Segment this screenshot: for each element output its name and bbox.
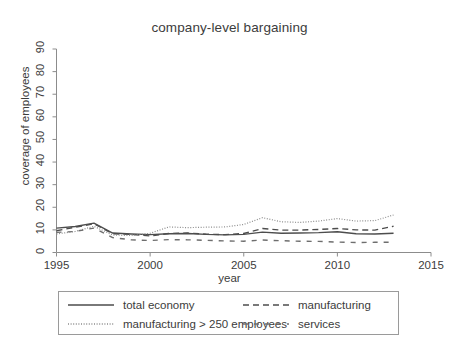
series-lines — [57, 215, 394, 243]
y-axis-tick-label: 50 — [34, 126, 46, 148]
legend-item-total-economy: total economy — [68, 296, 195, 314]
chart-legend: total economy manufacturing manufacturin… — [58, 291, 399, 335]
y-axis-tick-label: 60 — [34, 104, 46, 126]
x-axis-tick-label: 2000 — [127, 259, 173, 271]
y-axis-tick-label: 70 — [34, 81, 46, 103]
y-axis-tick-label: 80 — [34, 59, 46, 81]
x-axis-tick-label: 2005 — [221, 259, 267, 271]
y-axis-ticks — [53, 49, 57, 253]
x-axis-tick-label: 2015 — [408, 259, 454, 271]
legend-label: total economy — [123, 299, 195, 311]
y-axis-tick-label: 10 — [34, 217, 46, 239]
x-axis-title: year — [0, 272, 459, 284]
legend-line-sample-dashed — [243, 300, 289, 310]
legend-label: manufacturing — [298, 299, 371, 311]
legend-line-sample-dotted — [68, 319, 114, 329]
x-axis-tick-label: 2010 — [314, 259, 360, 271]
legend-item-manufacturing: manufacturing — [243, 296, 371, 314]
legend-line-sample-solid — [68, 300, 114, 310]
legend-line-sample-longdash — [243, 319, 289, 329]
x-axis-tick-label: 1995 — [34, 259, 80, 271]
chart-figure: company-level bargaining coverage of emp… — [0, 0, 459, 349]
y-axis-title: coverage of employees — [19, 56, 31, 196]
axis-lines — [57, 49, 432, 253]
y-axis-tick-label: 40 — [34, 149, 46, 171]
legend-item-services: services — [243, 315, 340, 333]
x-axis-ticks — [57, 253, 432, 257]
legend-label: services — [298, 318, 340, 330]
y-axis-tick-label: 90 — [34, 36, 46, 58]
y-axis-tick-label: 20 — [34, 194, 46, 216]
y-axis-tick-label: 30 — [34, 172, 46, 194]
